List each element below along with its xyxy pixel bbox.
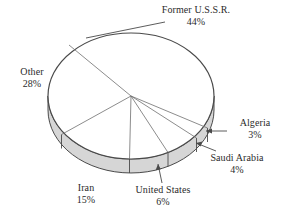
pie-chart-figure: Former U.S.S.R. 44% Other 28% Algeria 3%…: [0, 0, 282, 223]
slice-label-united-states-value: 6%: [122, 196, 204, 208]
slice-label-other: Other 28%: [6, 66, 58, 89]
slice-label-former-ussr-name: Former U.S.S.R.: [162, 4, 230, 15]
slice-label-saudi-arabia: Saudi Arabia 4%: [194, 152, 280, 175]
slice-label-iran: Iran 15%: [62, 182, 110, 205]
slice-label-algeria-name: Algeria: [240, 117, 271, 128]
slice-label-iran-value: 15%: [62, 194, 110, 206]
slice-label-former-ussr: Former U.S.S.R. 44%: [148, 4, 244, 27]
slice-label-saudi-arabia-value: 4%: [194, 164, 280, 176]
slice-label-iran-name: Iran: [78, 182, 95, 193]
slice-label-former-ussr-value: 44%: [148, 16, 244, 28]
slice-label-algeria-value: 3%: [229, 129, 281, 141]
slice-label-algeria: Algeria 3%: [229, 117, 281, 140]
slice-label-other-value: 28%: [6, 78, 58, 90]
slice-label-other-name: Other: [20, 66, 43, 77]
slice-label-united-states: United States 6%: [122, 184, 204, 207]
slice-label-united-states-name: United States: [136, 184, 191, 195]
slice-label-saudi-arabia-name: Saudi Arabia: [210, 152, 263, 163]
